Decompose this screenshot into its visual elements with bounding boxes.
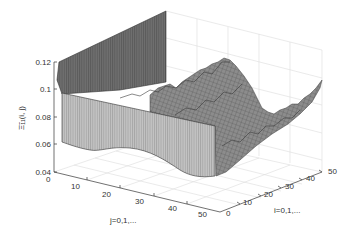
z-axis-label: Ξ̃₁₁(i, j) xyxy=(17,106,26,130)
i-tick-10: 10 xyxy=(243,198,252,207)
i-tick-30: 30 xyxy=(285,182,294,191)
i-tick-0: 0 xyxy=(226,209,231,218)
i-axis-label: i=0,1,... xyxy=(274,206,300,215)
z-tick-0.08: 0.08 xyxy=(35,113,51,122)
j-tick-40: 40 xyxy=(168,204,177,213)
i-tick-50: 50 xyxy=(328,167,337,176)
j-tick-0: 0 xyxy=(46,175,51,184)
i-tick-20: 20 xyxy=(264,190,273,199)
j-tick-20: 20 xyxy=(102,190,111,199)
z-axis xyxy=(54,62,57,172)
j-axis xyxy=(54,172,220,212)
dark-wall xyxy=(57,11,166,94)
j-tick-30: 30 xyxy=(135,197,144,206)
j-axis-label: j=0,1,... xyxy=(109,216,136,225)
z-tick-0.1: 0.1 xyxy=(40,85,52,94)
z-tick-0.06: 0.06 xyxy=(35,140,51,149)
i-tick-40: 40 xyxy=(306,174,315,183)
j-tick-50: 50 xyxy=(198,210,207,219)
surface-plot: 0.12 0.1 0.08 0.06 0.04 Ξ̃₁₁(i, j) 0 10 … xyxy=(0,0,357,232)
j-tick-10: 10 xyxy=(71,182,80,191)
z-tick-0.12: 0.12 xyxy=(35,58,51,67)
